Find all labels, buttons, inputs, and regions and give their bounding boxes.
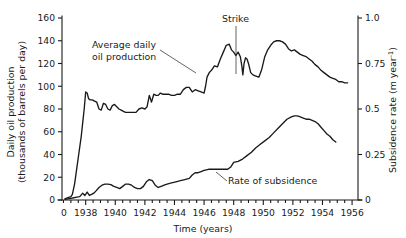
y-axis-left-title-line1: Daily oil production [5, 66, 16, 157]
annotation-label-rate-of-subsidence: Rate of subsidence [228, 175, 318, 186]
y-axis-right-title: Subsidence rate (m year-1) [387, 47, 398, 173]
y-axis-left-ticks [58, 18, 62, 200]
y-axis-left-title-group: Daily oil production (thousands of barre… [5, 41, 27, 183]
x-axis-origin-label: 0 [61, 207, 67, 218]
y-axis-right-ticks [358, 18, 362, 200]
annotation-leader-average-daily-oil-production [160, 50, 196, 73]
figure-root: 1938194019421944194619481950195219541956… [0, 0, 406, 238]
x-tick-label: 1940 [104, 207, 128, 218]
y-axis-left-tick-labels: 020406080100120140160 [37, 12, 55, 205]
y-tick-label-right: 0 [365, 194, 371, 205]
x-tick-label: 1948 [222, 207, 246, 218]
x-axis-title: Time (years) [172, 223, 232, 234]
y-axis-right-title-main: Subsidence rate (m year [387, 57, 398, 173]
annotation-leader-rate-of-subsidence [216, 172, 227, 181]
y-tick-label-left: 60 [43, 126, 55, 137]
y-axis-right-tick-labels: 00.250.50.751.0 [365, 12, 386, 205]
y-tick-label-left: 0 [49, 194, 55, 205]
y-axis-right-title-tail: ) [387, 47, 398, 51]
x-tick-label: 1952 [281, 207, 304, 218]
series-line-rate-of-subsidence [65, 116, 336, 200]
y-tick-label-left: 40 [43, 149, 55, 160]
y-tick-label-right: 0.5 [365, 103, 380, 114]
x-tick-label: 1938 [74, 207, 98, 218]
y-tick-label-right: 0.25 [365, 149, 386, 160]
x-tick-label: 1950 [252, 207, 276, 218]
x-axis-ticks [63, 200, 352, 205]
x-tick-label: 1954 [311, 207, 335, 218]
x-axis-title-group: Time (years) [172, 223, 232, 234]
y-tick-label-left: 80 [43, 103, 55, 114]
y-axis-right-title-group: Subsidence rate (m year-1) [387, 47, 398, 173]
chart-canvas: 1938194019421944194619481950195219541956… [0, 0, 406, 238]
y-tick-label-left: 140 [37, 35, 55, 46]
y-axis-left-title-line2: (thousands of barrels per day) [16, 41, 27, 183]
annotations-layer: Average dailyoil productionStrikeRate of… [92, 13, 318, 186]
annotation-label-strike: Strike [222, 13, 249, 24]
y-tick-label-right: 1.0 [365, 12, 380, 23]
y-tick-label-left: 120 [37, 58, 55, 69]
x-tick-label: 1956 [340, 207, 364, 218]
y-tick-label-left: 100 [37, 81, 55, 92]
x-tick-label: 1946 [192, 207, 216, 218]
y-tick-label-right: 0.75 [365, 58, 386, 69]
x-tick-label: 1942 [133, 207, 156, 218]
y-tick-label-left: 20 [43, 172, 55, 183]
annotation-label-average-daily-oil-production-line2: oil production [92, 51, 156, 62]
x-tick-label: 1944 [163, 207, 187, 218]
x-axis-tick-labels: 1938194019421944194619481950195219541956… [61, 207, 364, 218]
y-tick-label-left: 160 [37, 12, 55, 23]
annotation-label-average-daily-oil-production: Average daily [92, 39, 156, 50]
